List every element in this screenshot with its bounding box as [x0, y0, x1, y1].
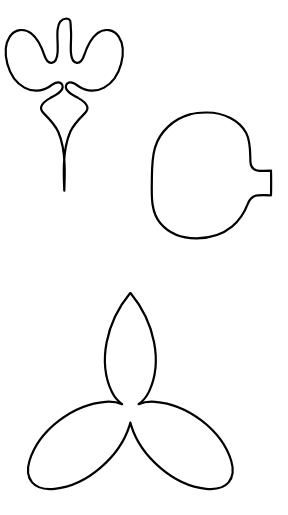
- drawing-canvas: [0, 0, 288, 515]
- shapes-svg: [0, 0, 288, 515]
